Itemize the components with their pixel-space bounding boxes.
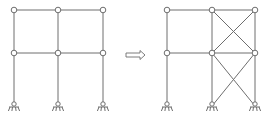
pin-joint-icon (164, 50, 170, 56)
support-hatch (105, 107, 106, 111)
support-hatch (171, 107, 173, 111)
pin-joint-icon (252, 7, 258, 13)
transform-arrow-icon (126, 51, 145, 60)
support-hatch (8, 107, 10, 111)
support-hatch (249, 107, 251, 111)
support-hinge (210, 102, 214, 106)
support-hatch (216, 107, 218, 111)
fixed-support-icon (52, 100, 63, 111)
pin-joint-icon (209, 7, 215, 13)
support-hinge (101, 102, 105, 106)
pin-joint-icon (100, 50, 106, 56)
right-frame (161, 7, 260, 111)
support-hatch (165, 107, 166, 111)
pin-joint-icon (100, 7, 106, 13)
support-hinge (165, 102, 169, 106)
support-hatch (52, 107, 54, 111)
support-hatch (169, 107, 170, 111)
fixed-support-icon (97, 100, 108, 111)
pin-joint-icon (11, 50, 17, 56)
frame-transformation-diagram (0, 0, 268, 118)
support-hatch (210, 107, 211, 111)
support-hinge (12, 102, 16, 106)
pin-joint-icon (55, 50, 61, 56)
support-hatch (253, 107, 254, 111)
pin-joint-icon (11, 7, 17, 13)
arrow-shape (126, 51, 145, 60)
support-hatch (16, 107, 17, 111)
support-hatch (257, 107, 258, 111)
diagram-svg (0, 0, 268, 118)
support-hinge (253, 102, 257, 106)
support-hatch (101, 107, 102, 111)
support-hatch (206, 107, 208, 111)
pin-joint-icon (209, 50, 215, 56)
pin-joint-icon (252, 50, 258, 56)
support-hatch (161, 107, 163, 111)
support-hatch (60, 107, 61, 111)
support-hatch (56, 107, 57, 111)
fixed-support-icon (8, 100, 19, 111)
support-hatch (18, 107, 20, 111)
fixed-support-icon (161, 100, 172, 111)
left-frame (8, 7, 108, 111)
support-hatch (214, 107, 215, 111)
support-hinge (56, 102, 60, 106)
support-hatch (259, 107, 261, 111)
support-hatch (12, 107, 13, 111)
support-hatch (97, 107, 99, 111)
pin-joint-icon (55, 7, 61, 13)
support-hatch (107, 107, 109, 111)
pin-joint-icon (164, 7, 170, 13)
support-hatch (62, 107, 64, 111)
